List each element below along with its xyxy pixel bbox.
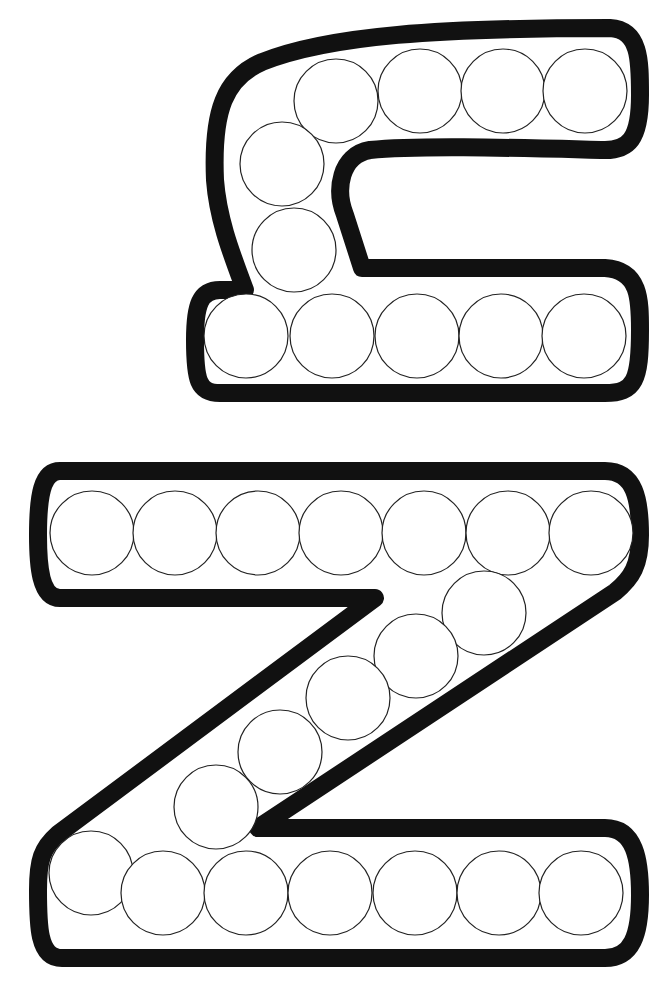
dot[interactable] [50,491,134,575]
uppercase-z-letter [38,471,640,958]
dot[interactable] [549,491,633,575]
dot[interactable] [382,491,466,575]
dot[interactable] [290,294,374,378]
dot[interactable] [378,49,462,133]
dot[interactable] [543,49,627,133]
dot[interactable] [252,208,336,292]
dot[interactable] [288,851,372,935]
dot[interactable] [121,851,205,935]
dot[interactable] [204,851,288,935]
dot[interactable] [49,831,133,915]
dot[interactable] [204,294,288,378]
dot[interactable] [539,851,623,935]
dot[interactable] [457,851,541,935]
dot[interactable] [240,122,324,206]
dot[interactable] [459,294,543,378]
dot[interactable] [299,491,383,575]
worksheet-page: Dot marker letter Z worksheet [0,0,669,1004]
dot[interactable] [466,491,550,575]
dot[interactable] [238,710,322,794]
dot[interactable] [461,49,545,133]
dot[interactable] [542,294,626,378]
letter-artwork [0,0,669,1004]
dot[interactable] [133,491,217,575]
dot[interactable] [216,491,300,575]
dot[interactable] [174,765,258,849]
lowercase-z-letter [195,28,640,393]
dot[interactable] [373,851,457,935]
dot[interactable] [306,656,390,740]
dot[interactable] [375,294,459,378]
